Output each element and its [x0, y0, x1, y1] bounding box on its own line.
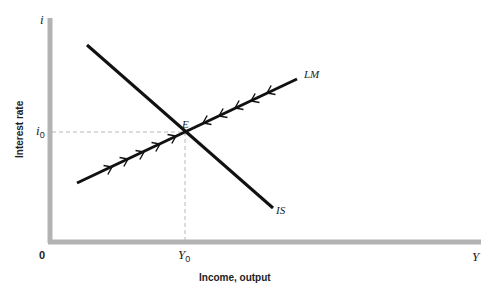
x-axis-title: Income, output: [199, 272, 271, 283]
lm-curve: [77, 79, 297, 183]
y0-tick-label: Y0: [178, 247, 190, 263]
is-curve: [87, 45, 273, 208]
y0-sub: 0: [185, 254, 190, 264]
x-axis-symbol: Y: [472, 249, 479, 265]
equilibrium-label: E: [182, 118, 189, 130]
origin-label: 0: [39, 249, 45, 261]
islm-diagram: i i0 Interest rate 0 Y0 Y Income, output…: [0, 0, 495, 294]
y-axis-symbol: i: [40, 12, 44, 28]
i0-tick-label: i0: [36, 123, 45, 139]
i0-sub: 0: [40, 130, 45, 140]
y-axis-title: Interest rate: [14, 101, 25, 158]
lm-curve-label: LM: [304, 68, 319, 80]
is-curve-label: IS: [276, 204, 285, 216]
